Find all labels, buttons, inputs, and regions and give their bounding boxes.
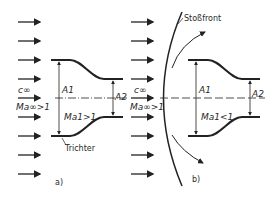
funnel-label: Trichter — [64, 144, 96, 153]
mach-free-label-a: Ma∞>1 — [16, 102, 50, 112]
panel-label-a: a) — [55, 178, 63, 187]
velocity-label-b: c∞ — [134, 85, 146, 95]
funnel-upper-wall-a — [51, 60, 123, 79]
shock-front-curve — [164, 12, 183, 186]
mach-inlet-label-b: Ma1<1 — [201, 112, 233, 122]
panel-label-b: b) — [192, 175, 200, 184]
area-a1-label-a: A1 — [61, 85, 74, 95]
mach-inlet-label-a: Ma1>1 — [64, 112, 96, 122]
area-a1-label-b: A1 — [198, 85, 211, 95]
area-a2-label-a: A2 — [114, 92, 127, 102]
deflection-arrow-upper — [172, 32, 205, 68]
velocity-label-a: c∞ — [18, 85, 30, 95]
deflection-arrow-lower — [172, 135, 203, 163]
supersonic-inlet-diagram: c∞ Ma∞>1 A1 A2 Ma1>1 Trichter a) c∞ Ma∞>… — [0, 0, 273, 198]
panel-b — [131, 12, 265, 186]
mach-free-label-b: Ma∞>1 — [130, 102, 164, 112]
funnel-upper-wall-b — [188, 60, 260, 79]
flow-arrows-b — [131, 22, 153, 174]
flow-arrows-a — [18, 22, 40, 174]
shock-front-label: Stoßfront — [184, 14, 221, 23]
area-a2-label-b: A2 — [251, 89, 264, 99]
